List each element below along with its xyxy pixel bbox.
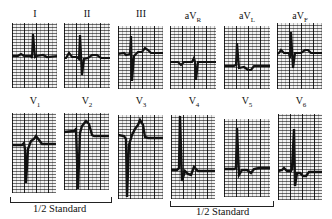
- half-standard-label-V1-V2: 1/2 Standard: [33, 203, 86, 214]
- lead-label-II: II: [64, 9, 110, 23]
- ecg-strip-V1: [12, 113, 56, 193]
- ecg-strip-V5: [224, 119, 270, 197]
- lead-label-I: I: [12, 9, 58, 23]
- lead-label-V3: V3: [118, 96, 164, 110]
- lead-label-aVR: aVR: [170, 11, 216, 25]
- ecg-strip-V4: [171, 115, 215, 199]
- ecg-strip-aVR: [170, 26, 216, 89]
- half-standard-label-V4-V5: 1/2 Standard: [196, 206, 249, 217]
- ecg-strip-aVF: [277, 23, 322, 89]
- lead-label-V2: V2: [64, 96, 110, 110]
- lead-label-aVL: aVL: [224, 11, 270, 25]
- lead-label-III: III: [118, 9, 164, 23]
- ecg-strip-II: [64, 23, 110, 88]
- ecg-strip-III: [118, 26, 163, 89]
- ecg-strip-V3: [118, 115, 163, 199]
- ecg-strip-V6: [278, 114, 322, 200]
- lead-label-V5: V5: [224, 96, 270, 110]
- lead-label-V1: V1: [12, 96, 58, 110]
- ecg-strip-I: [12, 23, 57, 88]
- ecg-strip-V2: [64, 113, 109, 190]
- ecg-strip-aVL: [224, 26, 270, 89]
- lead-label-V4: V4: [171, 96, 217, 110]
- lead-label-V6: V6: [278, 96, 324, 110]
